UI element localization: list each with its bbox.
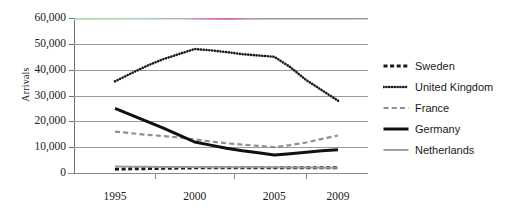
y-tick-label: 20,000 bbox=[34, 115, 66, 127]
series-line-france bbox=[115, 132, 338, 148]
series-line-netherlands bbox=[115, 167, 338, 168]
y-tick-label: 40,000 bbox=[34, 64, 66, 76]
dotted-swatch bbox=[383, 81, 409, 93]
y-tick-label: 0 bbox=[60, 167, 66, 179]
arrivals-line-chart: Arrivals 60,00050,00040,00030,00020,0001… bbox=[0, 0, 517, 216]
legend-item-france[interactable]: France bbox=[383, 97, 517, 118]
x-tick-mark bbox=[306, 173, 307, 179]
legend-item-netherlands[interactable]: Netherlands bbox=[383, 139, 517, 160]
x-tick-mark bbox=[234, 173, 235, 179]
y-tick-label: 10,000 bbox=[34, 141, 66, 153]
y-tick-label: 30,000 bbox=[34, 90, 66, 102]
chart-legend: SwedenUnited KingdomFranceGermanyNetherl… bbox=[383, 55, 517, 160]
y-tick-label: 60,000 bbox=[34, 12, 66, 24]
series-line-germany bbox=[115, 108, 338, 155]
legend-label: Germany bbox=[415, 123, 460, 135]
x-tick-label: 2009 bbox=[327, 190, 350, 202]
gray-solid-swatch bbox=[383, 144, 409, 156]
x-axis-line bbox=[68, 173, 368, 174]
y-axis-tick-labels: 60,00050,00040,00030,00020,00010,0000 bbox=[0, 0, 70, 216]
series-line-united-kingdom bbox=[115, 49, 338, 101]
thick-solid-swatch bbox=[383, 123, 409, 135]
series-lines bbox=[74, 18, 368, 173]
legend-label: France bbox=[415, 102, 449, 114]
plot-area bbox=[74, 18, 368, 173]
x-tick-mark bbox=[155, 173, 156, 179]
legend-item-sweden[interactable]: Sweden bbox=[383, 55, 517, 76]
y-tick-label: 50,000 bbox=[34, 38, 66, 50]
x-tick-label: 2000 bbox=[183, 190, 206, 202]
legend-item-germany[interactable]: Germany bbox=[383, 118, 517, 139]
legend-label: Sweden bbox=[415, 60, 455, 72]
legend-item-united-kingdom[interactable]: United Kingdom bbox=[383, 76, 517, 97]
legend-label: United Kingdom bbox=[415, 81, 493, 93]
legend-label: Netherlands bbox=[415, 144, 474, 156]
x-tick-label: 1995 bbox=[104, 190, 127, 202]
x-tick-label: 2005 bbox=[263, 190, 286, 202]
thick-dashed-swatch bbox=[383, 60, 409, 72]
gray-dashed-swatch bbox=[383, 102, 409, 114]
